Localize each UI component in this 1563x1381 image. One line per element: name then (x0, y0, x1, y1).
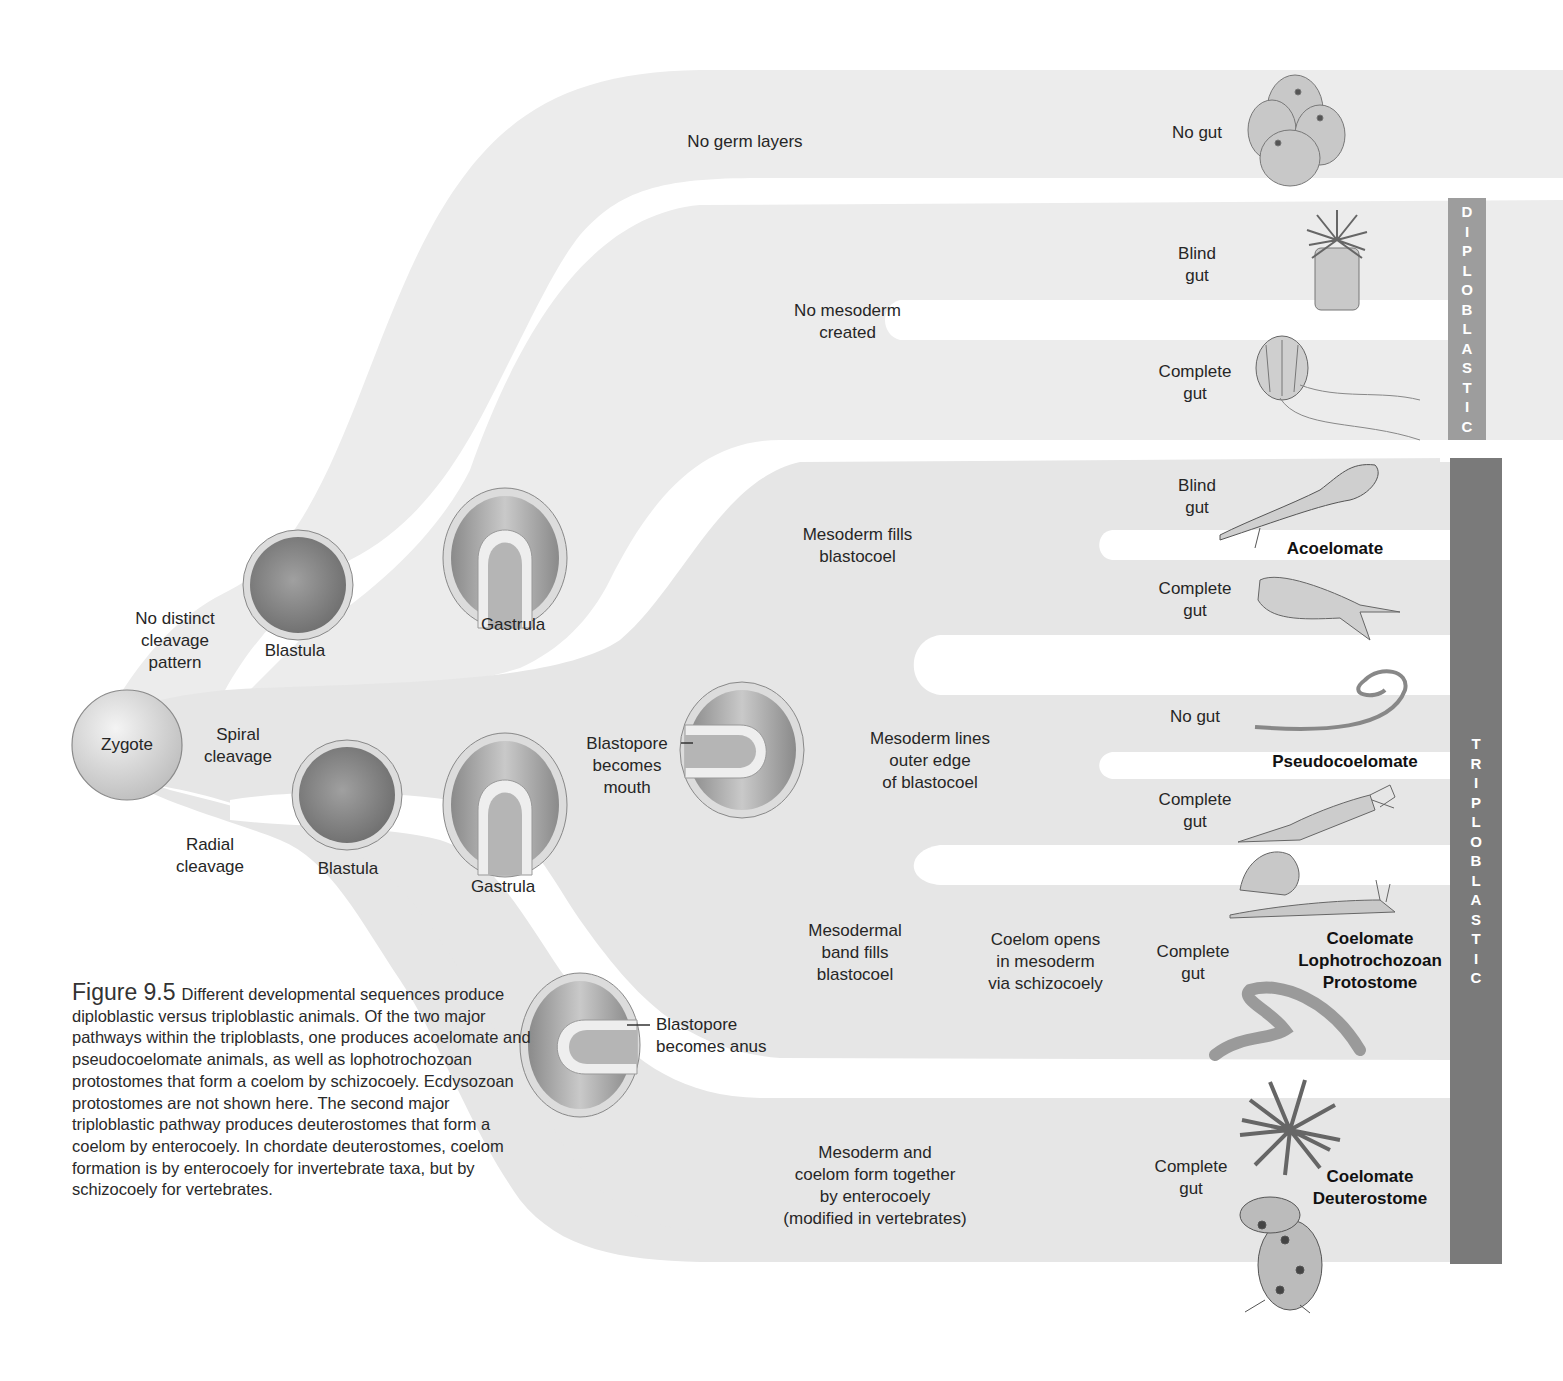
mesoderm-fills-label: Mesoderm fills blastocoel (780, 524, 935, 568)
gut-label-anemone: Blindgut (1155, 243, 1239, 287)
gut-label-ribbonworm: Completegut (1145, 578, 1245, 622)
mesoderm-lines-label: Mesoderm lines outer edge of blastocoel (845, 728, 1015, 794)
gastrula-top-illustration (443, 488, 567, 628)
developmental-sequence-diagram: Zygote No distinct cleavage pattern Spir… (0, 0, 1563, 1381)
enterocoely-label: Mesoderm and coelom form together by ent… (760, 1142, 990, 1230)
gastrula-top-label: Gastrula (468, 614, 558, 636)
pseudocoelomate-label: Pseudocoelomate (1250, 751, 1440, 773)
acoelomate-label: Acoelomate (1270, 538, 1400, 560)
gut-label-deuterostome: Completegut (1141, 1156, 1241, 1200)
blastula-top-illustration (243, 530, 353, 640)
blastopore-mouth-illustration (680, 682, 804, 818)
figure-caption-text: Different developmental sequences produc… (72, 985, 531, 1198)
blastopore-anus-label: Blastopore becomes anus (656, 1014, 767, 1058)
spiral-cleavage-label: Spiral cleavage (188, 724, 288, 768)
no-germ-layers-label: No germ layers (640, 131, 850, 153)
lophotrochozoan-label: Coelomate Lophotrochozoan Protostome (1295, 928, 1445, 994)
figure-caption: Figure 9.5Different developmental sequen… (72, 982, 532, 1201)
no-mesoderm-label: No mesoderm created (770, 300, 925, 344)
diploblastic-bar: DIPLOBLASTIC (1448, 198, 1486, 440)
gut-label-horsehair: No gut (1150, 706, 1240, 728)
mesodermal-band-label: Mesodermal band fills blastocoel (790, 920, 920, 986)
radial-cleavage-label: Radial cleavage (160, 834, 260, 878)
gut-label-rotifer: Completegut (1145, 789, 1245, 833)
gastrula-bottom-illustration (443, 733, 567, 877)
gastrula-bottom-label: Gastrula (458, 876, 548, 898)
blastopore-mouth-label: Blastopore becomes mouth (572, 733, 682, 799)
gut-label-flatworm: Blindgut (1155, 475, 1239, 519)
zygote-label: Zygote (80, 734, 174, 756)
triploblastic-bar: TRIPLOBLASTIC (1450, 458, 1502, 1264)
figure-number: Figure 9.5 (72, 979, 176, 1005)
blastula-bottom-illustration (292, 740, 402, 850)
gut-label-lophotrochozoan: Completegut (1143, 941, 1243, 985)
blastopore-anus-illustration (520, 973, 640, 1117)
blastula-bottom-label: Blastula (303, 858, 393, 880)
blastula-top-label: Blastula (250, 640, 340, 662)
gut-label-combjelly: Completegut (1145, 361, 1245, 405)
coelom-opens-label: Coelom opens in mesoderm via schizocoely (968, 929, 1123, 995)
deuterostome-label: Coelomate Deuterostome (1300, 1166, 1440, 1210)
gut-label-sponge: No gut (1155, 122, 1239, 144)
no-distinct-cleavage-label: No distinct cleavage pattern (120, 608, 230, 674)
